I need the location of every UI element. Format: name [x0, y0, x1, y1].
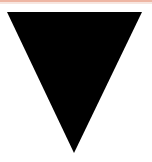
triangle-shape	[7, 12, 142, 153]
down-triangle-icon[interactable]	[0, 0, 152, 162]
